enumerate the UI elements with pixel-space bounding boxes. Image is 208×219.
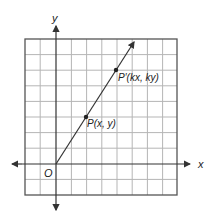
y-axis-label: y: [51, 12, 59, 24]
x-axis-label: x: [197, 158, 204, 170]
coordinate-plane: x y O P(x, y) P′(kx, ky): [0, 0, 208, 219]
point-p-label: P(x, y): [87, 118, 116, 129]
point-p-prime-label: P′(kx, ky): [118, 72, 159, 83]
dilation-ray: [56, 42, 134, 164]
origin-label: O: [44, 167, 53, 179]
